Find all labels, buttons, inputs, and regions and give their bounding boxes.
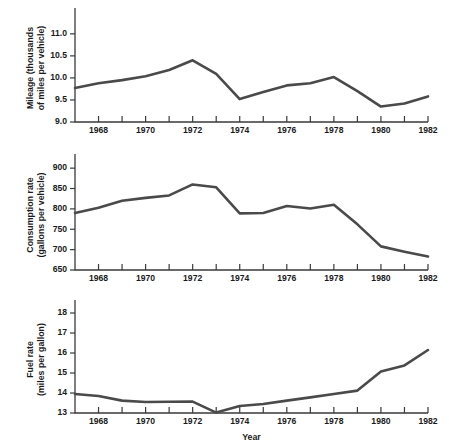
data-series-line (75, 350, 428, 413)
x-tick-label: 1982 (418, 273, 437, 283)
x-tick-label: 1978 (324, 273, 343, 283)
x-tick-label: 1976 (277, 273, 296, 283)
x-tick-label: 1974 (230, 273, 249, 283)
x-tick-label: 1980 (371, 125, 390, 135)
x-tick-label: 1982 (418, 125, 437, 135)
x-tick-label: 1978 (324, 125, 343, 135)
y-tick-label: 13 (57, 407, 67, 417)
x-tick-label: 1970 (136, 273, 155, 283)
x-tick-label: 1974 (230, 125, 249, 135)
x-tick-label: 1976 (277, 125, 296, 135)
x-tick-label: 1974 (230, 416, 249, 426)
chart-panel-fuel-rate: 1314151617181968197019721974197619781980… (0, 298, 449, 443)
x-tick-label: 1972 (183, 416, 202, 426)
x-tick-label: 1968 (89, 273, 108, 283)
y-tick-label: 15 (57, 367, 67, 377)
mileage-chart-svg: 9.09.510.010.511.01968197019721974197619… (0, 0, 449, 148)
x-tick-label: 1972 (183, 273, 202, 283)
y-tick-label: 11.0 (51, 28, 67, 38)
x-axis-title: Year (242, 432, 261, 442)
x-tick-label: 1972 (183, 125, 202, 135)
y-axis-title-line-2: of miles per vehicle) (36, 26, 46, 111)
chart-panel-consumption-rate: 6507007508008509001968197019721974197619… (0, 148, 449, 298)
x-tick-label: 1978 (324, 416, 343, 426)
y-axis-title: Mileage (thousandsof miles per vehicle) (25, 26, 46, 111)
x-tick-label: 1968 (89, 416, 108, 426)
multi-panel-line-chart-figure: 9.09.510.010.511.01968197019721974197619… (0, 0, 449, 443)
axis-spine (75, 300, 428, 413)
fuel-rate-chart-svg: 1314151617181968197019721974197619781980… (0, 298, 449, 443)
y-tick-label: 9.5 (55, 94, 67, 104)
x-tick-label: 1976 (277, 416, 296, 426)
y-tick-label: 18 (57, 307, 67, 317)
data-series-line (75, 60, 428, 106)
axis-spine (75, 8, 428, 122)
y-axis-title-line-2: (gallons per vehicle) (36, 172, 46, 257)
x-tick-label: 1968 (89, 125, 108, 135)
y-axis-title: Fuel rate(miles per gallon) (25, 323, 46, 396)
y-tick-label: 650 (53, 264, 68, 274)
y-tick-label: 850 (53, 183, 68, 193)
y-axis-title: Consumption rate(gallons per vehicle) (25, 172, 46, 257)
y-tick-label: 900 (53, 162, 68, 172)
y-tick-label: 10.0 (50, 72, 67, 82)
y-axis-title-line-1: Consumption rate (25, 177, 35, 252)
y-tick-label: 9.0 (55, 116, 67, 126)
y-tick-label: 750 (53, 224, 68, 234)
y-axis-title-line-2: (miles per gallon) (36, 323, 46, 396)
y-tick-label: 17 (57, 327, 67, 337)
y-tick-label: 14 (57, 387, 67, 397)
x-tick-label: 1980 (371, 273, 390, 283)
x-tick-label: 1970 (136, 416, 155, 426)
x-tick-label: 1970 (136, 125, 155, 135)
y-axis-title-line-1: Fuel rate (25, 341, 35, 378)
y-tick-label: 800 (53, 203, 68, 213)
y-axis-title-line-1: Mileage (thousands (25, 27, 35, 109)
x-tick-label: 1982 (418, 416, 437, 426)
consumption-rate-chart-svg: 6507007508008509001968197019721974197619… (0, 148, 449, 298)
chart-panel-mileage: 9.09.510.010.511.01968197019721974197619… (0, 0, 449, 148)
data-series-line (75, 184, 428, 256)
y-tick-label: 10.5 (50, 50, 67, 60)
y-tick-label: 16 (57, 347, 67, 357)
x-tick-label: 1980 (371, 416, 390, 426)
y-tick-label: 700 (53, 244, 68, 254)
